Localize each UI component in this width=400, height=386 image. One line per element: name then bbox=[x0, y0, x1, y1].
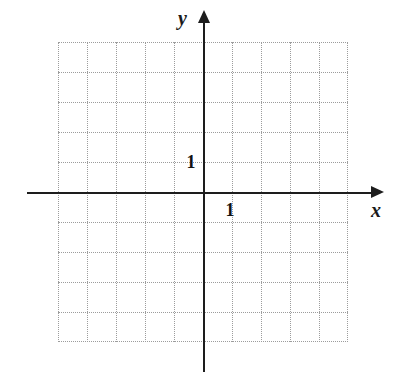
x-axis-label: x bbox=[371, 200, 381, 220]
y-axis-arrow-icon bbox=[198, 10, 210, 23]
x-axis-line bbox=[27, 192, 374, 195]
y-axis-line bbox=[203, 20, 206, 372]
x-axis-arrow-icon bbox=[371, 186, 384, 198]
y-axis-tick-label-one: 1 bbox=[184, 153, 198, 171]
coordinate-grid-figure: y x 1 1 bbox=[0, 0, 400, 386]
y-axis-label: y bbox=[178, 8, 187, 28]
x-axis-tick-label-one: 1 bbox=[223, 201, 237, 219]
